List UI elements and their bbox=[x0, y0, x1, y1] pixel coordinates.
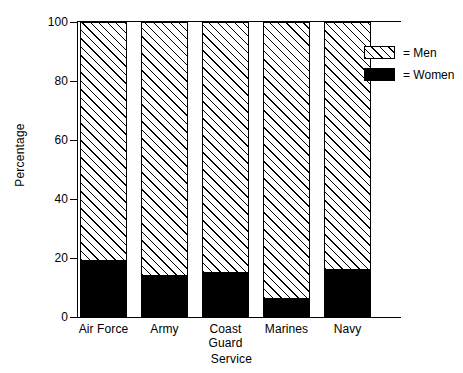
bar-group-coast-guard[interactable] bbox=[202, 22, 249, 317]
x-tick-label-navy: Navy bbox=[302, 322, 394, 336]
y-tick-label-80: 80 bbox=[24, 75, 68, 87]
plot-area bbox=[78, 22, 400, 317]
y-tick-label-60: 60 bbox=[24, 134, 68, 146]
legend-item[interactable]: = Women bbox=[364, 66, 463, 83]
bar-segment-women[interactable] bbox=[141, 276, 188, 317]
x-tick-label-line: Navy bbox=[302, 322, 394, 336]
legend-item[interactable]: = Men bbox=[364, 44, 463, 61]
y-tick-100 bbox=[70, 22, 78, 23]
x-tick-label-line: Guard bbox=[180, 336, 272, 350]
stacked-bar-chart: 020406080100 Percentage Air ForceArmyCoa… bbox=[0, 0, 463, 373]
legend-swatch-men bbox=[364, 46, 395, 59]
legend-label: = Men bbox=[403, 46, 437, 60]
y-tick-label-40: 40 bbox=[24, 193, 68, 205]
y-tick-60 bbox=[70, 140, 78, 141]
bar-segment-women[interactable] bbox=[202, 273, 249, 317]
y-tick-40 bbox=[70, 199, 78, 200]
bar-group-army[interactable] bbox=[141, 22, 188, 317]
bar-group-marines[interactable] bbox=[263, 22, 310, 317]
legend-label: = Women bbox=[403, 68, 454, 82]
x-axis-title: Service bbox=[0, 352, 463, 366]
bar-group-air-force[interactable] bbox=[80, 22, 127, 317]
y-tick-80 bbox=[70, 81, 78, 82]
y-axis-title: Percentage bbox=[13, 100, 27, 210]
bar-segment-women[interactable] bbox=[80, 261, 127, 317]
bar-segment-men[interactable] bbox=[80, 22, 127, 261]
bar-segment-women[interactable] bbox=[324, 270, 371, 317]
bar-segment-women[interactable] bbox=[263, 299, 310, 317]
y-tick-label-100: 100 bbox=[24, 16, 68, 28]
bar-segment-men[interactable] bbox=[263, 22, 310, 299]
legend: = Men= Women bbox=[364, 44, 463, 88]
bar-segment-men[interactable] bbox=[141, 22, 188, 276]
axis-bottom-line bbox=[77, 317, 401, 318]
y-tick-20 bbox=[70, 258, 78, 259]
legend-swatch-women bbox=[364, 68, 395, 81]
y-tick-label-20: 20 bbox=[24, 252, 68, 264]
y-tick-0 bbox=[70, 317, 78, 318]
bar-segment-men[interactable] bbox=[202, 22, 249, 273]
